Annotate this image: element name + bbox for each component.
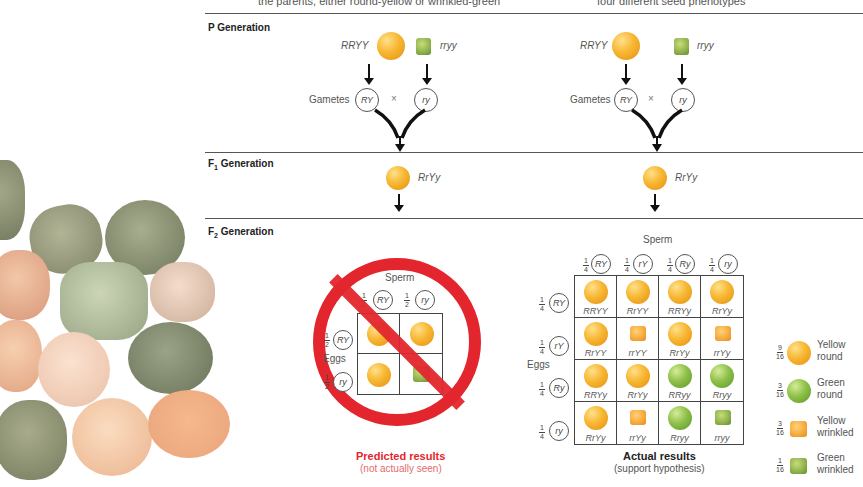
pea-seeds-photo xyxy=(0,150,215,487)
legend-item: 916 Yellowround xyxy=(776,336,863,370)
right-sperm-label: Sperm xyxy=(643,234,672,245)
punnett-cell: RrYY xyxy=(574,317,617,360)
merge-arrow-icon xyxy=(627,108,687,153)
fraction-quarter: 14 xyxy=(667,257,673,274)
left-gametes-label: Gametes xyxy=(309,94,350,105)
fraction-quarter: 14 xyxy=(709,257,715,274)
yellow-round-pea-icon xyxy=(668,322,692,346)
actual-results-title: Actual results xyxy=(623,450,696,462)
green-round-pea-icon xyxy=(710,364,734,388)
arrow-down-icon xyxy=(625,64,627,79)
punnett-cell: Rryy xyxy=(700,359,744,402)
predicted-results-subtitle: (not actually seen) xyxy=(360,463,442,474)
phenotype-legend: 916 Yellowround 316 Greenround 316 Yello… xyxy=(776,336,863,481)
right-parent2-genotype: rryy xyxy=(697,40,714,51)
p-generation-label: P Generation xyxy=(208,22,270,33)
right-f1-genotype: RrYy xyxy=(675,172,697,183)
arrow-down-icon xyxy=(681,64,683,79)
fraction-half: 12 xyxy=(324,374,330,391)
left-caption: the parents, either round-yellow or wrin… xyxy=(258,0,500,7)
left-sperm-ry: ry xyxy=(415,290,435,310)
yellow-round-pea-icon xyxy=(584,280,608,304)
fraction-half: 12 xyxy=(324,332,330,349)
punnett-cell: RrYy xyxy=(658,317,701,360)
divider-f1-f2 xyxy=(205,218,863,219)
yellow-round-pea-icon xyxy=(377,32,405,60)
actual-results-subtitle: (support hypothesis) xyxy=(614,463,705,474)
yellow-round-pea-icon xyxy=(626,364,650,388)
green-round-pea-icon xyxy=(668,364,692,388)
fraction-half: 12 xyxy=(404,292,410,309)
punnett-cell: rrYy xyxy=(616,401,659,445)
punnett-cell: RRyy xyxy=(658,359,701,402)
green-wrinkled-pea-icon xyxy=(715,410,731,425)
arrow-down-icon xyxy=(368,64,370,79)
right-egg-RY: RY xyxy=(549,293,569,313)
punnett-cell: RrYy xyxy=(616,359,659,402)
yellow-wrinkled-pea-icon xyxy=(630,410,646,425)
left-parent2-genotype: rryy xyxy=(440,40,457,51)
yellow-round-pea-icon xyxy=(584,322,608,346)
green-round-pea-icon xyxy=(668,406,692,430)
yellow-round-pea-icon xyxy=(386,166,410,190)
legend-item: 116 Greenwrinkled xyxy=(776,449,863,483)
right-sperm-ry: ry xyxy=(718,254,738,274)
f2-generation-label: F2 Generation xyxy=(208,226,274,239)
right-eggs-label: Eggs xyxy=(527,359,550,370)
fraction-quarter: 14 xyxy=(539,424,545,441)
punnett-cell: rrYy xyxy=(700,317,744,360)
legend-item: 316 Greenround xyxy=(776,374,863,408)
fraction-quarter: 14 xyxy=(624,257,630,274)
merge-arrow-icon xyxy=(370,108,430,153)
arrow-down-icon xyxy=(654,194,656,206)
green-wrinkled-pea-icon xyxy=(416,38,431,55)
divider-p-f1 xyxy=(205,152,863,153)
right-sperm-rY: rY xyxy=(633,254,653,274)
punnett-cell: Rryy xyxy=(658,401,701,445)
punnett-cell: RrYy xyxy=(700,275,744,318)
punnett-cell: RrYy xyxy=(574,401,617,445)
yellow-round-pea-icon xyxy=(787,341,811,365)
left-egg-RY: RY xyxy=(333,330,353,350)
punnett-cell: RRYY xyxy=(574,275,617,318)
f1-generation-label: F1 Generation xyxy=(208,158,274,171)
actual-punnett-grid: RRYY RrYY RRYy RrYy RrYY rrYY RrYy rrYy … xyxy=(574,275,744,445)
fraction-quarter: 14 xyxy=(539,296,545,313)
green-wrinkled-pea-icon xyxy=(790,458,807,474)
green-round-pea-icon xyxy=(787,379,811,403)
left-parent1-genotype: RRYY xyxy=(341,40,368,51)
fraction-quarter: 14 xyxy=(583,257,589,274)
right-sperm-RY: RY xyxy=(591,254,611,274)
yellow-round-pea-icon xyxy=(584,406,608,430)
arrow-down-icon xyxy=(398,194,400,206)
yellow-round-pea-icon xyxy=(668,280,692,304)
fraction-quarter: 14 xyxy=(539,339,545,356)
right-caption: four different seed phenotypes xyxy=(597,0,745,7)
legend-item: 316 Yellowwrinkled xyxy=(776,412,863,446)
yellow-wrinkled-pea-icon xyxy=(715,326,731,341)
punnett-cell: rrYY xyxy=(616,317,659,360)
arrow-down-icon xyxy=(426,64,428,79)
cross-symbol: × xyxy=(648,93,654,104)
right-sperm-Ry: Ry xyxy=(675,254,695,274)
fraction-quarter: 14 xyxy=(539,381,545,398)
yellow-round-pea-icon xyxy=(410,322,434,346)
yellow-round-pea-icon xyxy=(710,280,734,304)
divider-top xyxy=(205,13,863,14)
yellow-round-pea-icon xyxy=(626,280,650,304)
yellow-wrinkled-pea-icon xyxy=(630,326,646,341)
left-eggs-label: Eggs xyxy=(323,353,346,364)
right-egg-ry: ry xyxy=(549,421,569,441)
predicted-results-title: Predicted results xyxy=(356,450,445,462)
left-sperm-RY: RY xyxy=(373,290,393,310)
punnett-cell: RRYy xyxy=(658,275,701,318)
left-f1-genotype: RrYy xyxy=(418,172,440,183)
punnett-cell: rryy xyxy=(700,401,744,445)
left-egg-ry: ry xyxy=(333,372,353,392)
left-sperm-label: Sperm xyxy=(385,272,414,283)
yellow-wrinkled-pea-icon xyxy=(790,421,807,437)
yellow-round-pea-icon xyxy=(367,363,391,387)
right-gametes-label: Gametes xyxy=(570,94,611,105)
right-parent1-genotype: RRYY xyxy=(580,40,607,51)
green-wrinkled-pea-icon xyxy=(674,38,689,55)
